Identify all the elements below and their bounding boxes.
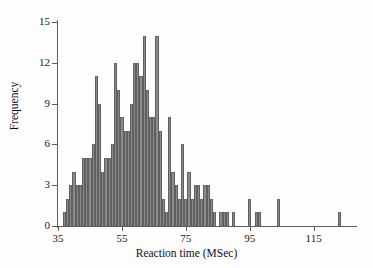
- y-tick-label: 6: [20, 138, 50, 149]
- x-tick-mark: [314, 226, 315, 231]
- x-tick-mark: [250, 226, 251, 231]
- y-tick-label-wrap: 3: [0, 179, 50, 190]
- y-axis-title: Frequency: [8, 56, 20, 156]
- x-axis-title: Reaction time (MSec): [0, 247, 373, 259]
- histogram-bar: [232, 212, 235, 226]
- histogram-figure: 03691215 35557595115 Reaction time (MSec…: [0, 0, 373, 268]
- histogram-bar: [338, 212, 341, 226]
- y-tick-label-wrap: 0: [0, 220, 50, 231]
- x-tick-label: 35: [38, 233, 78, 244]
- histogram-bar: [226, 212, 229, 226]
- y-tick-label-wrap: 15: [0, 16, 50, 27]
- x-tick-mark: [122, 226, 123, 231]
- histogram-bar: [248, 199, 251, 226]
- y-tick-label: 0: [20, 220, 50, 231]
- y-tick-label: 3: [20, 179, 50, 190]
- y-tick-label: 15: [20, 16, 50, 27]
- x-tick-label: 95: [230, 233, 270, 244]
- x-axis-line: [57, 226, 357, 227]
- y-tick-label: 9: [20, 98, 50, 109]
- x-tick-mark: [186, 226, 187, 231]
- plot-area: [58, 22, 352, 226]
- y-tick-label: 12: [20, 57, 50, 68]
- histogram-bar: [258, 212, 261, 226]
- x-tick-label: 115: [294, 233, 334, 244]
- x-tick-mark: [58, 226, 59, 231]
- histogram-bar: [277, 199, 280, 226]
- x-tick-label: 55: [102, 233, 142, 244]
- histogram-bar: [213, 212, 216, 226]
- x-tick-label: 75: [166, 233, 206, 244]
